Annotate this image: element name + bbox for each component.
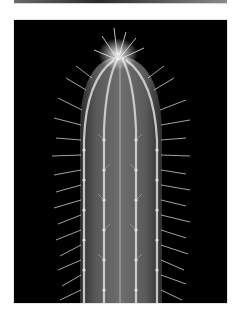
cactus-illustration: [14, 20, 227, 303]
cactus-photo: [14, 20, 227, 303]
previous-photo-edge: [14, 0, 227, 4]
